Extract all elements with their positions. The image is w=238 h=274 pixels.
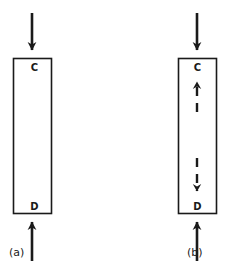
panel-a: C D [14,13,52,261]
panel-a-label-d: D [30,201,38,212]
panel-b-label-c: C [194,62,201,73]
panel-b: C D [179,13,217,261]
figure-root: C D C D (a) (b) [0,0,238,274]
panel-b-caption: (b) [187,247,203,259]
panel-a-vessel [14,59,52,214]
panel-b-label-d: D [193,201,201,212]
diagram-canvas: C D C D [0,0,238,274]
panel-a-label-c: C [31,62,38,73]
panel-a-caption: (a) [9,247,24,259]
